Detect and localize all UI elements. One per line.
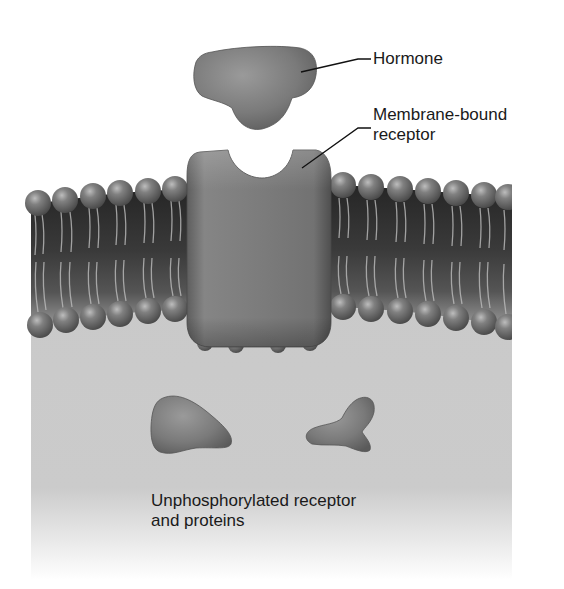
membrane-bound-receptor [187,150,331,347]
receptor-label-line1: Membrane-bound [373,105,507,125]
receptor-label-line2: receptor [373,125,507,145]
hormone-label: Hormone [373,49,443,69]
unphosphorylated-label: Unphosphorylated receptor and proteins [151,491,356,531]
unphosphorylated-label-line2: and proteins [151,511,356,531]
unphosphorylated-label-line1: Unphosphorylated receptor [151,491,356,511]
hormone-label-text: Hormone [373,49,443,69]
receptor-label: Membrane-bound receptor [373,105,507,145]
hormone [194,46,317,129]
